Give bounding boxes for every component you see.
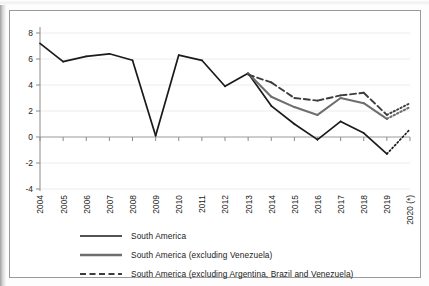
x-tick-label: 2020 (*) <box>405 195 415 225</box>
chart-frame: 86420-2-42004200520062007200820092010201… <box>9 10 421 278</box>
series-line <box>271 97 294 107</box>
chart-legend: South America South America (excluding V… <box>78 226 408 283</box>
legend-label: South America (excluding Venezuela) <box>131 250 272 260</box>
x-tick-label: 2016 <box>313 195 323 214</box>
x-tick-label: 2018 <box>359 195 369 214</box>
y-tick-label: 8 <box>28 28 33 38</box>
series-line <box>364 133 387 154</box>
series-line <box>133 60 156 135</box>
y-tick-label: 0 <box>28 132 33 142</box>
series-line <box>202 60 225 86</box>
series-line <box>179 55 202 60</box>
legend-swatch-excluding-argentina-brazil-venezuela <box>78 268 124 280</box>
x-tick-label: 2013 <box>244 195 254 214</box>
scan-edge-left <box>0 0 7 286</box>
x-tick-label: 2015 <box>290 195 300 214</box>
legend-item: South America (excluding Venezuela) <box>78 245 408 264</box>
y-tick-label: 6 <box>28 54 33 64</box>
series-line <box>271 106 294 124</box>
x-tick-label: 2009 <box>151 195 161 214</box>
y-tick-label: -2 <box>26 158 34 168</box>
legend-item: South America (excluding Argentina, Braz… <box>78 264 408 283</box>
x-tick-label: 2005 <box>59 195 69 214</box>
series-line <box>86 54 109 57</box>
series-projection-line <box>387 129 410 154</box>
x-tick-label: 2017 <box>336 195 346 214</box>
y-tick-label: 2 <box>28 106 33 116</box>
legend-swatch-south-america <box>78 230 124 242</box>
y-tick-label: -4 <box>26 184 34 194</box>
x-tick-label: 2012 <box>220 195 230 214</box>
series-line <box>225 73 248 86</box>
page: 86420-2-42004200520062007200820092010201… <box>0 0 429 286</box>
x-tick-label: 2014 <box>267 195 277 214</box>
series-line <box>156 55 179 136</box>
legend-label: South America <box>131 231 186 241</box>
series-line <box>294 98 317 101</box>
legend-item: South America <box>78 226 408 245</box>
series-line <box>341 98 364 103</box>
x-tick-label: 2008 <box>128 195 138 214</box>
series-line <box>341 121 364 133</box>
x-tick-label: 2011 <box>197 195 207 213</box>
x-tick-label: 2006 <box>82 195 92 214</box>
y-tick-label: 4 <box>28 80 33 90</box>
x-tick-label: 2010 <box>174 195 184 214</box>
legend-swatch-excluding-venezuela <box>78 249 124 261</box>
x-tick-label: 2019 <box>382 195 392 214</box>
x-tick-label: 2004 <box>35 195 45 214</box>
scan-edge-top <box>0 0 429 5</box>
series-line <box>341 93 364 96</box>
x-tick-label: 2007 <box>105 195 115 214</box>
legend-label: South America (excluding Argentina, Braz… <box>131 269 353 279</box>
